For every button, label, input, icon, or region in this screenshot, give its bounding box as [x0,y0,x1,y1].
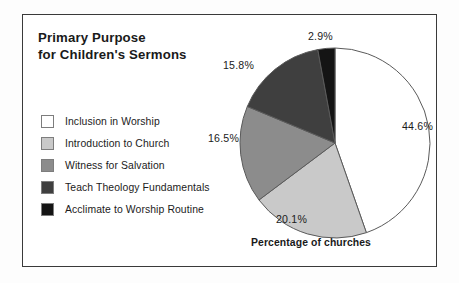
legend-item-label: Witness for Salvation [65,160,165,171]
legend-swatch-icon [41,203,54,216]
legend-item-label: Introduction to Church [65,138,169,149]
legend-swatch-icon [41,159,54,172]
chart-legend: Inclusion in Worship Introduction to Chu… [40,110,255,220]
legend-swatch-icon [41,115,54,128]
pie-slice-group [240,48,430,238]
chart-panel: Primary Purpose for Children's Sermons I… [22,14,437,267]
pie-chart: 44.6% 20.1% 16.5% 15.8% 2.9% [228,25,438,240]
legend-item-inclusion-in-worship[interactable]: Inclusion in Worship [40,110,255,132]
legend-item-label: Teach Theology Fundamentals [65,182,210,193]
legend-item-witness-for-salvation[interactable]: Witness for Salvation [40,154,255,176]
legend-swatch-icon [41,137,54,150]
figure-container: Primary Purpose for Children's Sermons I… [0,0,459,283]
slice-value-label-inclusion-in-worship: 44.6% [402,120,433,132]
chart-caption: Percentage of churches [251,237,371,248]
legend-item-acclimate-to-worship-routine[interactable]: Acclimate to Worship Routine [40,198,255,220]
legend-swatch-icon [41,181,54,194]
slice-value-label-introduction-to-church: 20.1% [276,213,307,225]
slice-value-label-witness-for-salvation: 16.5% [208,132,239,144]
legend-item-teach-theology-fundamentals[interactable]: Teach Theology Fundamentals [40,176,255,198]
pie-chart-svg [228,25,438,240]
slice-value-label-teach-theology-fundamentals: 15.8% [223,59,254,71]
slice-value-label-acclimate-to-worship-routine: 2.9% [308,30,333,42]
legend-item-label: Inclusion in Worship [65,116,160,127]
legend-item-label: Acclimate to Worship Routine [65,204,204,215]
